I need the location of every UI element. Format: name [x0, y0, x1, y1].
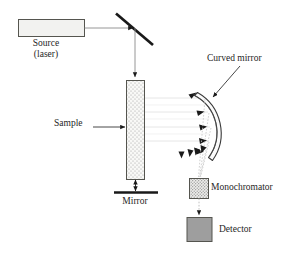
mirror-label: Mirror [113, 196, 157, 207]
source-laser-box [19, 20, 85, 37]
monochromator-label: Monochromator [211, 182, 273, 193]
diagonal-mirror [116, 14, 153, 46]
curved-mirror-leader-line [213, 66, 240, 97]
scattered-beam-bundle-inner [145, 105, 209, 134]
detector-label: Detector [219, 224, 252, 235]
detector-box [187, 218, 212, 242]
converging-rays [199, 99, 212, 177]
converging-ray-arrowheads [179, 145, 207, 159]
curved-mirror-label: Curved mirror [207, 53, 262, 64]
source-label-line2: (laser) [16, 49, 76, 60]
scattered-beam-bundle [145, 98, 210, 141]
monochromator-box [190, 179, 209, 199]
optical-diagram-figure: Source (laser) Sample Mirror Curved mirr… [0, 0, 289, 255]
sample-block [127, 81, 145, 180]
sample-label: Sample [54, 118, 83, 129]
source-label-line1: Source [16, 38, 76, 49]
source-label: Source (laser) [16, 38, 76, 60]
